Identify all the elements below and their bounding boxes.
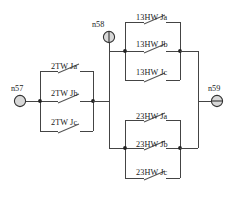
switch-label-2tw-jb: 2TW Jb xyxy=(51,89,78,98)
center-vertical-bus xyxy=(109,43,125,148)
switch-label-13hw-ja: 13HW Ja xyxy=(136,13,167,22)
node-symbol-n57[interactable] xyxy=(14,95,25,106)
switch-label-23hw-jc: 23HW Jc xyxy=(136,168,167,177)
switch-label-2tw-ja: 2TW Ja xyxy=(51,62,77,71)
node-label-n58: n58 xyxy=(92,20,104,29)
switch-label-13hw-jb: 13HW Jb xyxy=(136,40,168,49)
switch-label-23hw-jb: 23HW Jb xyxy=(136,140,168,149)
node-symbol-n58[interactable] xyxy=(103,31,114,42)
node-label-n57: n57 xyxy=(11,84,23,93)
right-vertical-bus xyxy=(180,51,211,148)
junction-dot-2tw-left xyxy=(38,99,42,103)
node-label-n59: n59 xyxy=(208,84,220,93)
junction-dot-13hw-left xyxy=(123,49,127,53)
switch-label-2tw-jc: 2TW Jc xyxy=(51,118,77,127)
circuit-svg xyxy=(0,0,236,200)
switch-label-23hw-ja: 23HW Ja xyxy=(136,112,167,121)
schematic-canvas: n57 n58 n59 2TW Ja 2TW Jb 2TW Jc 13HW Ja… xyxy=(0,0,236,200)
junction-dot-23hw-left xyxy=(123,146,127,150)
switch-label-13hw-jc: 13HW Jc xyxy=(136,68,167,77)
node-symbol-n59[interactable] xyxy=(211,95,222,106)
